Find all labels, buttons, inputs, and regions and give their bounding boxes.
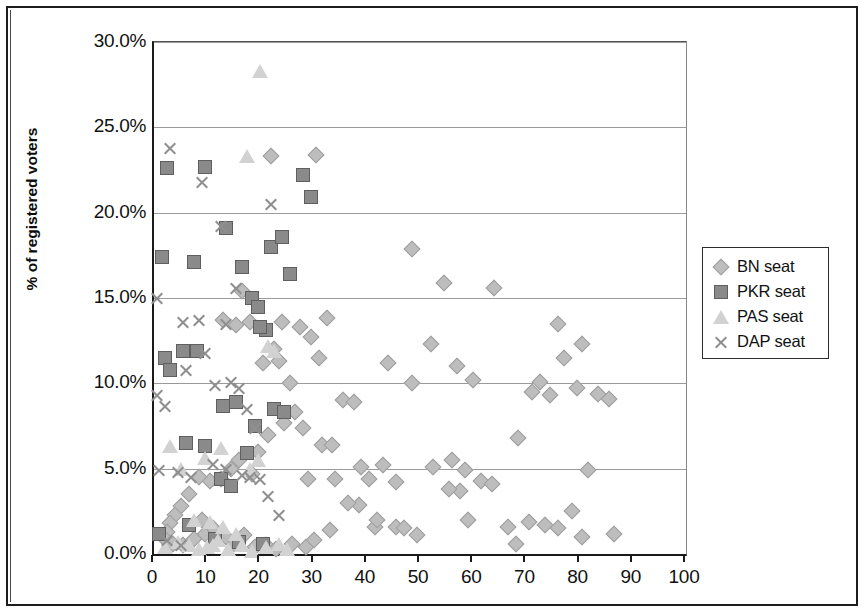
x-tick-mark (364, 555, 366, 562)
data-point (550, 520, 567, 537)
data-point (422, 336, 439, 353)
data-point (272, 507, 287, 522)
data-point (459, 511, 476, 528)
data-point (310, 349, 327, 366)
legend-label: PKR seat (737, 282, 805, 301)
gridline (154, 127, 686, 128)
data-point (574, 528, 591, 545)
data-point (555, 349, 572, 366)
chart-legend: BN seatPKR seatPAS seatDAP seat (702, 247, 829, 359)
data-point (176, 344, 190, 358)
data-point (263, 148, 280, 165)
data-point (465, 371, 482, 388)
y-tick-label: 15.0% (60, 286, 146, 308)
data-point (253, 320, 267, 334)
data-point (218, 316, 233, 331)
legend-item-bn[interactable]: BN seat (703, 254, 828, 279)
data-point (277, 405, 291, 419)
data-point (253, 471, 268, 486)
data-point (251, 300, 265, 314)
gridline (154, 298, 686, 299)
data-point (542, 387, 559, 404)
legend-item-pkr[interactable]: PKR seat (703, 279, 828, 304)
square-icon (714, 285, 728, 299)
data-point (326, 470, 343, 487)
data-point (192, 313, 207, 328)
data-point (152, 463, 167, 478)
y-tick-label: 5.0% (60, 457, 146, 479)
data-point (443, 452, 460, 469)
x-tick-label: 40 (355, 566, 376, 588)
data-point (218, 461, 233, 476)
data-point (321, 522, 338, 539)
x-tick-label: 0 (147, 566, 157, 588)
gridline (154, 213, 686, 214)
x-axis-ticks: 0102030405060708090100 (152, 560, 687, 600)
data-point (507, 535, 524, 552)
legend-swatch (712, 283, 730, 301)
scatter-chart: % of registered voters 0.0%5.0%10.0%15.0… (0, 0, 866, 615)
data-point (563, 503, 580, 520)
x-tick-mark (630, 555, 632, 562)
data-point (186, 513, 202, 527)
data-point (374, 457, 391, 474)
legend-item-dap[interactable]: DAP seat (703, 329, 828, 354)
data-point (308, 146, 325, 163)
data-point (380, 354, 397, 371)
data-point (213, 441, 229, 455)
y-tick-label: 0.0% (60, 542, 146, 564)
x-tick-mark (577, 555, 579, 562)
data-point (521, 513, 538, 530)
legend-swatch (712, 333, 730, 351)
data-point (176, 314, 191, 329)
data-point (173, 538, 188, 553)
x-tick-label: 60 (461, 566, 482, 588)
x-tick-mark (470, 555, 472, 562)
data-point (574, 336, 591, 353)
data-point (294, 419, 311, 436)
legend-label: DAP seat (737, 332, 805, 351)
data-point (235, 260, 249, 274)
data-point (187, 255, 201, 269)
data-point (149, 291, 164, 306)
x-tick-mark (417, 555, 419, 562)
x-tick-mark (683, 555, 685, 562)
legend-label: PAS seat (737, 307, 803, 326)
x-tick-mark (257, 555, 259, 562)
cross-icon (714, 334, 729, 349)
data-point (155, 250, 169, 264)
data-point (264, 197, 279, 212)
data-point (275, 230, 289, 244)
data-point (435, 274, 452, 291)
data-point (240, 401, 255, 416)
legend-swatch (712, 258, 730, 276)
data-point (281, 375, 298, 392)
data-point (160, 161, 174, 175)
x-tick-label: 50 (408, 566, 429, 588)
data-point (300, 470, 317, 487)
data-point (409, 527, 426, 544)
x-tick-label: 20 (248, 566, 269, 588)
data-point (579, 462, 596, 479)
data-point (178, 362, 193, 377)
data-point (208, 378, 223, 393)
data-point (250, 453, 266, 467)
data-point (486, 279, 503, 296)
data-point (318, 310, 335, 327)
data-point (606, 525, 623, 542)
data-point (184, 470, 199, 485)
legend-item-pas[interactable]: PAS seat (703, 304, 828, 329)
triangle-icon (713, 310, 729, 324)
data-point (404, 375, 421, 392)
data-point (404, 240, 421, 257)
x-tick-mark (311, 555, 313, 562)
x-tick-mark (151, 555, 153, 562)
data-point (198, 160, 212, 174)
data-point (157, 398, 172, 413)
data-point (162, 140, 177, 155)
data-point (232, 381, 247, 396)
x-tick-mark (204, 555, 206, 562)
data-point (229, 280, 244, 295)
chart-page: % of registered voters 0.0%5.0%10.0%15.0… (0, 0, 866, 615)
data-point (239, 149, 255, 163)
